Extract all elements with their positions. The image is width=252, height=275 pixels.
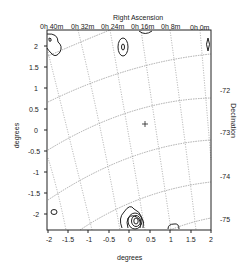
y-tick-label: -1.5: [28, 190, 40, 197]
x-tick-label: 0: [128, 236, 132, 243]
plot-frame: [47, 30, 211, 230]
x-tick-label: -1.5: [62, 236, 74, 243]
y-tick-label: -2: [33, 211, 39, 218]
x-tick-label: 1.5: [186, 236, 196, 243]
ra-tick-label: 0h 0m: [190, 24, 209, 31]
contour-plot: [0, 0, 252, 275]
y-axis-label: degrees: [13, 123, 20, 148]
contours: [47, 31, 210, 229]
x-tick-label: 0.5: [146, 236, 156, 243]
y-tick-label: 0.5: [29, 106, 39, 113]
chart-title: Right Ascension: [113, 14, 163, 21]
dec-tick-label: -72: [220, 87, 230, 94]
axis-ticks: [44, 46, 211, 233]
ra-tick-label: 0h 16m: [131, 23, 154, 30]
declination-label: Declination: [230, 103, 237, 138]
x-tick-label: -1: [86, 236, 92, 243]
x-axis-label: degrees: [117, 254, 142, 261]
ra-tick-label: 0h 8m: [161, 23, 180, 30]
ra-grid-lines: [48, 30, 211, 230]
x-tick-label: -2: [46, 236, 52, 243]
x-tick-label: -0.5: [103, 236, 115, 243]
y-tick-label: 1.5: [29, 64, 39, 71]
y-tick-label: 0: [34, 127, 38, 134]
dec-tick-label: -73: [220, 129, 230, 136]
y-tick-label: -1: [33, 169, 39, 176]
dec-tick-label: -75: [220, 216, 230, 223]
ra-tick-label: 0h 40m: [40, 23, 63, 30]
ra-tick-label: 0h 24m: [101, 23, 124, 30]
x-tick-label: 1: [169, 236, 173, 243]
y-tick-label: 2: [34, 43, 38, 50]
y-tick-label: -0.5: [28, 148, 40, 155]
center-marker: [142, 121, 148, 127]
y-tick-label: 1: [34, 85, 38, 92]
ra-tick-label: 0h 32m: [71, 23, 94, 30]
x-tick-label: 2: [209, 236, 213, 243]
dec-tick-label: -74: [220, 173, 230, 180]
dec-grid-lines: [48, 30, 211, 230]
